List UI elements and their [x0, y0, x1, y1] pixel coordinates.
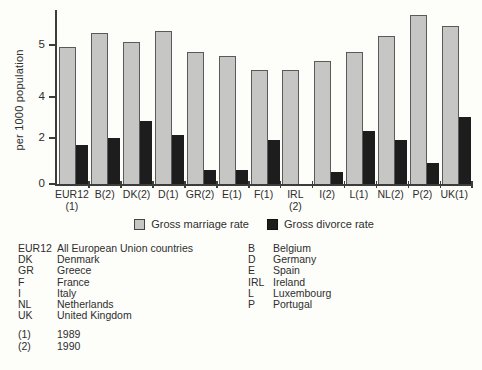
y-axis-tick-label-4: 4: [25, 90, 45, 102]
x-axis-label-text: DK(2): [121, 189, 153, 201]
x-axis-label-text: L(1): [343, 189, 375, 201]
x-axis-label-IRL: IRL(2): [279, 189, 311, 212]
x-axis-label-L(1): L(1): [343, 189, 375, 212]
y-axis-title: per 1000 population: [13, 49, 25, 150]
x-axis-label-text: P(2): [407, 189, 439, 201]
bar-divorce-I(2): [331, 172, 343, 184]
x-axis-label-text: E(1): [216, 189, 248, 201]
bar-divorce-B(2): [108, 138, 120, 184]
key-definition: Spain: [273, 265, 300, 276]
key-row-DK: DKDenmark: [18, 254, 193, 265]
x-axis-tick-13: [471, 181, 473, 188]
x-axis-label-DK(2): DK(2): [121, 189, 153, 212]
country-key-column-right: BBelgiumDGermanyESpainIRLIrelandLLuxembo…: [248, 243, 331, 310]
bar-marriage-I(2): [314, 61, 331, 184]
bar-marriage-EUR12: [59, 47, 76, 184]
x-axis-label-text: D(1): [152, 189, 184, 201]
y-axis-tick-label-0: 0: [25, 177, 45, 189]
bar-group-I(2): [312, 10, 344, 184]
footnote-row-(1): (1)1989: [18, 329, 193, 340]
bar-marriage-GR(2): [187, 52, 204, 184]
key-term: P: [248, 299, 273, 310]
x-axis-label-D(1): D(1): [152, 189, 184, 212]
key-term: E: [248, 265, 273, 276]
x-axis-label-note: (2): [279, 201, 311, 213]
key-row-F: FFrance: [18, 277, 193, 288]
bar-divorce-UK(1): [459, 117, 471, 184]
bar-group-IRL: [280, 10, 312, 184]
bar-group-L(1): [344, 10, 376, 184]
key-row-E: ESpain: [248, 265, 331, 276]
legend-label: Gross divorce rate: [284, 218, 374, 230]
x-axis-label-GR(2): GR(2): [184, 189, 216, 212]
y-axis-tick-label-5: 5: [25, 38, 45, 50]
legend-swatch-divorce-icon: [267, 219, 278, 230]
bar-divorce-D(1): [172, 135, 184, 184]
x-axis-label-NL(2): NL(2): [375, 189, 407, 212]
key-row-UK: UKUnited Kingdom: [18, 310, 193, 321]
y-axis-tick-0: [49, 183, 57, 185]
x-axis-label-I(2): I(2): [311, 189, 343, 212]
bar-marriage-NL(2): [378, 36, 395, 184]
bar-divorce-P(2): [427, 163, 439, 184]
key-term: F: [18, 277, 57, 288]
footnote-definition: 1989: [57, 329, 80, 340]
x-axis-label-text: EUR12: [55, 189, 89, 201]
x-axis-label-text: UK(1): [438, 189, 470, 201]
bar-group-NL(2): [376, 10, 408, 184]
y-axis-tick-5: [49, 44, 57, 46]
key-row-EUR12: EUR12All European Union countries: [18, 243, 193, 254]
key-row-GR: GRGreece: [18, 265, 193, 276]
x-axis-label-text: B(2): [89, 189, 121, 201]
bar-group-P(2): [408, 10, 440, 184]
bar-divorce-DK(2): [140, 121, 152, 184]
bar-marriage-DK(2): [123, 42, 140, 184]
y-axis-tick-4: [49, 96, 57, 98]
country-key-column-left: EUR12All European Union countriesDKDenma…: [18, 243, 193, 352]
x-axis-label-text: I(2): [311, 189, 343, 201]
x-axis-label-UK(1): UK(1): [438, 189, 470, 212]
footnote-term: (2): [18, 341, 57, 352]
bar-marriage-E(1): [219, 56, 236, 184]
key-definition: United Kingdom: [57, 310, 132, 321]
bar-divorce-E(1): [236, 170, 248, 184]
footnote-definition: 1990: [57, 341, 80, 352]
y-axis-tick-2: [49, 137, 57, 139]
x-axis-label-EUR12: EUR12(1): [55, 189, 89, 212]
x-axis-label-text: IRL: [279, 189, 311, 201]
footnotes: (1)1989(2)1990: [18, 329, 193, 351]
x-axis-label-text: GR(2): [184, 189, 216, 201]
bar-group-B(2): [89, 10, 121, 184]
legend-item-marriage: Gross marriage rate: [134, 218, 249, 230]
y-axis-tick-label-2: 2: [25, 131, 45, 143]
bar-group-GR(2): [185, 10, 217, 184]
bar-group-F(1): [249, 10, 281, 184]
key-row-P: PPortugal: [248, 299, 331, 310]
footnote-term: (1): [18, 329, 57, 340]
bar-divorce-GR(2): [204, 170, 216, 184]
bar-group-UK(1): [440, 10, 472, 184]
plot-area: 0245: [55, 10, 472, 186]
x-axis-label-P(2): P(2): [407, 189, 439, 212]
bar-divorce-L(1): [363, 131, 375, 184]
x-axis-label-B(2): B(2): [89, 189, 121, 212]
bar-divorce-NL(2): [395, 140, 407, 184]
legend-item-divorce: Gross divorce rate: [267, 218, 374, 230]
bar-marriage-IRL: [282, 70, 299, 184]
bar-marriage-B(2): [91, 33, 108, 184]
marriage-divorce-rate-figure: per 1000 population 0245 EUR12(1)B(2)DK(…: [0, 0, 482, 370]
x-axis-label-E(1): E(1): [216, 189, 248, 212]
bar-divorce-F(1): [268, 140, 280, 184]
bar-group-DK(2): [121, 10, 153, 184]
legend: Gross marriage rateGross divorce rate: [0, 218, 482, 230]
bar-marriage-P(2): [410, 15, 427, 184]
legend-swatch-marriage-icon: [134, 219, 145, 230]
x-axis-label-note: (1): [55, 201, 89, 213]
key-definition: Greece: [57, 265, 91, 276]
bar-divorce-EUR12: [76, 145, 88, 184]
x-axis-label-F(1): F(1): [248, 189, 280, 212]
bar-marriage-D(1): [155, 31, 172, 184]
bar-group-EUR12: [57, 10, 89, 184]
x-axis-labels: EUR12(1)B(2)DK(2)D(1)GR(2)E(1)F(1)IRL(2)…: [55, 189, 470, 212]
footnote-row-(2): (2)1990: [18, 341, 193, 352]
